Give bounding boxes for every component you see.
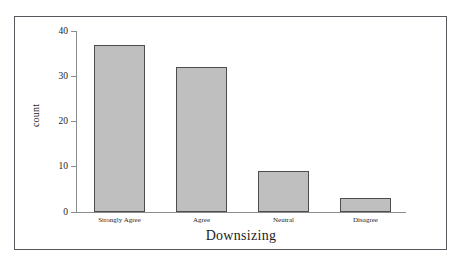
y-tick-mark-10 xyxy=(71,166,76,167)
x-tick-label-disagree: Disagree xyxy=(330,216,401,225)
y-tick-label-0-wrap: 0 xyxy=(40,207,68,217)
x-tick-label-agree: Agree xyxy=(166,216,237,225)
y-tick-label-30-wrap: 30 xyxy=(40,71,68,81)
y-tick-mark-0 xyxy=(71,212,76,213)
y-axis-line xyxy=(76,31,77,213)
y-tick-label-0: 0 xyxy=(42,207,68,217)
bar-agree xyxy=(176,67,227,212)
bar-disagree xyxy=(340,198,391,212)
y-tick-label-30: 30 xyxy=(42,71,68,81)
y-tick-label-10: 10 xyxy=(42,161,68,171)
y-tick-mark-20 xyxy=(71,121,76,122)
x-tick-label-neutral: Neutral xyxy=(248,216,319,225)
bar-strongly-agree xyxy=(94,45,145,212)
bar-neutral xyxy=(258,171,309,212)
figure: 0 10 20 30 40 count Strongly Agree Agree… xyxy=(0,0,461,263)
y-tick-label-10-wrap: 10 xyxy=(40,161,68,171)
y-tick-label-20-wrap: 20 xyxy=(40,116,68,126)
y-tick-mark-40 xyxy=(71,31,76,32)
plot-area: 0 10 20 30 40 count Strongly Agree Agree… xyxy=(0,0,461,263)
x-axis-line xyxy=(76,212,406,213)
x-tick-label-strongly-agree: Strongly Agree xyxy=(84,216,155,225)
y-tick-label-20: 20 xyxy=(42,116,68,126)
y-tick-mark-30 xyxy=(71,76,76,77)
x-axis-title: Downsizing xyxy=(76,228,406,244)
y-tick-label-40-wrap: 40 xyxy=(40,26,68,36)
y-axis-title: count xyxy=(30,76,41,156)
y-tick-label-40: 40 xyxy=(42,26,68,36)
